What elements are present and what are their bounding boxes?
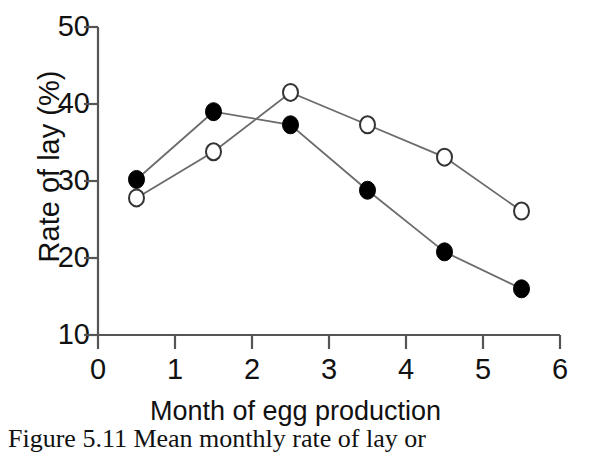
x-tick-label: 4: [386, 355, 426, 384]
x-tick-label: 5: [463, 355, 503, 384]
x-tick-label: 0: [78, 355, 118, 384]
x-tick-label: 1: [155, 355, 195, 384]
x-tick-label: 3: [309, 355, 349, 384]
x-tick-label: 2: [232, 355, 272, 384]
x-axis-label: Month of egg production: [0, 396, 591, 427]
figure-caption: Figure 5.11 Mean monthly rate of lay or: [8, 424, 591, 454]
x-tick-label: 6: [540, 355, 580, 384]
